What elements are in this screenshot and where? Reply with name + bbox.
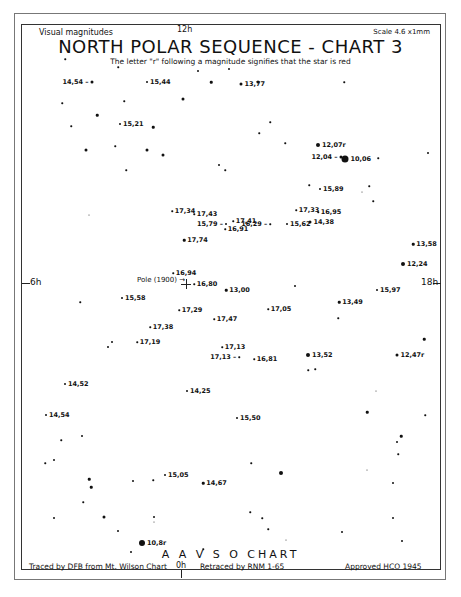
field-star <box>64 58 66 60</box>
field-star <box>117 530 119 532</box>
field-star <box>250 462 252 464</box>
comparison-star <box>171 210 173 212</box>
comparison-star <box>202 482 205 485</box>
star-magnitude-label: 15,44 <box>150 78 171 86</box>
field-star <box>96 114 99 117</box>
field-star <box>367 470 368 471</box>
field-star <box>70 125 72 127</box>
comparison-star <box>238 356 240 358</box>
star-magnitude-label: 17,43 <box>197 210 218 218</box>
star-magnitude-label: 17,13 – <box>210 353 236 361</box>
field-star <box>154 522 155 523</box>
star-magnitude-label: 13,49 <box>342 298 363 306</box>
field-star <box>314 368 316 370</box>
star-magnitude-label: 16,94 <box>176 269 197 277</box>
comparison-star <box>221 346 223 348</box>
field-star <box>81 435 83 437</box>
field-star <box>397 453 399 455</box>
field-star <box>153 516 155 518</box>
star-magnitude-label: 14,54 – <box>62 78 88 86</box>
comparison-star <box>139 540 145 546</box>
comparison-star <box>269 223 271 225</box>
field-star <box>82 501 84 503</box>
aavso-chart-label: A A V S O CHART <box>0 548 461 561</box>
field-star <box>269 121 271 123</box>
star-magnitude-label: 12,04 – <box>311 153 337 161</box>
field-star <box>284 142 286 144</box>
field-star <box>294 285 296 287</box>
star-magnitude-label: 13,00 <box>229 286 250 294</box>
star-magnitude-label: 17,13 <box>225 343 246 351</box>
field-star <box>89 215 90 216</box>
field-star <box>368 185 370 187</box>
field-star <box>123 100 125 102</box>
comparison-star <box>295 209 297 211</box>
comparison-star <box>213 318 215 320</box>
field-star <box>224 169 226 171</box>
field-star <box>182 98 185 101</box>
comparison-star <box>253 358 255 360</box>
field-star <box>53 459 55 461</box>
star-magnitude-label: 15,89 <box>323 185 344 193</box>
field-star <box>337 317 339 319</box>
star-magnitude-label: 12,07r <box>322 141 346 149</box>
field-star <box>152 126 155 129</box>
ra-6h-label: 6h <box>30 277 41 287</box>
field-star <box>392 482 394 484</box>
field-star <box>132 480 134 482</box>
scale-label: Scale 4.6 x1mm <box>373 28 430 36</box>
field-star <box>261 517 263 519</box>
star-magnitude-label: 15,58 <box>125 294 146 302</box>
field-star <box>372 200 374 202</box>
field-star <box>79 301 81 303</box>
comparison-star <box>45 414 47 416</box>
traced-by-label: Traced by DFB from Mt. Wilson Chart <box>29 562 167 571</box>
star-magnitude-label: 17,74 <box>187 236 208 244</box>
pole-marker-v <box>186 279 187 289</box>
field-star <box>377 157 379 159</box>
field-star <box>343 81 345 83</box>
field-star <box>103 516 106 519</box>
comparison-star <box>401 262 405 266</box>
comparison-star <box>286 223 288 225</box>
star-magnitude-label: 10,06 <box>351 155 372 163</box>
retraced-by-label: Retraced by RNM 1-65 <box>200 562 284 571</box>
star-magnitude-label: 13,52 <box>312 351 333 359</box>
field-star <box>125 169 127 171</box>
star-magnitude-label: 16,80 <box>197 280 218 288</box>
comparison-star <box>164 474 166 476</box>
comparison-star <box>178 309 180 311</box>
comparison-star <box>121 297 123 299</box>
field-star <box>152 479 154 481</box>
field-star <box>286 540 287 541</box>
star-magnitude-label: 14,25 <box>190 387 211 395</box>
field-star <box>249 511 251 513</box>
field-star <box>44 462 46 464</box>
ra-0h-label: 0h <box>176 561 186 570</box>
star-magnitude-label: 17,47 <box>217 315 238 323</box>
field-star <box>396 441 398 443</box>
field-star <box>424 414 426 416</box>
star-magnitude-label: 14,67 <box>206 479 227 487</box>
field-star <box>114 145 116 147</box>
field-star <box>392 517 394 519</box>
comparison-star <box>225 289 228 292</box>
comparison-star <box>342 156 349 163</box>
star-magnitude-label: 14,52 <box>68 380 89 388</box>
comparison-star <box>136 341 138 343</box>
approved-label: Approved HCO 1945 <box>345 562 422 571</box>
field-star <box>210 81 213 84</box>
field-star <box>162 154 165 157</box>
field-star <box>423 338 426 341</box>
star-magnitude-label: 17,29 <box>182 306 203 314</box>
comparison-star <box>309 221 312 224</box>
field-star <box>279 471 283 475</box>
star-magnitude-label: 16,95 <box>321 208 342 216</box>
star-magnitude-label: 17,05 <box>271 305 292 313</box>
chart-subtitle: The letter "r" following a magnitude sig… <box>0 57 461 66</box>
pole-label: Pole (1900) → <box>137 276 185 284</box>
field-star <box>60 439 62 441</box>
star-magnitude-label: 17,19 <box>140 338 161 346</box>
comparison-star <box>240 83 243 86</box>
star-magnitude-label: 15,79 – <box>197 220 223 228</box>
